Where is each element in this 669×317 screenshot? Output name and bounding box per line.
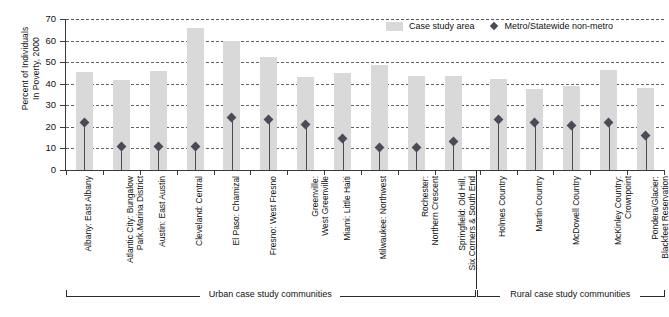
y-tick-label-70: 70 (28, 13, 56, 24)
x-axis-label-line2: Northern Crescent (431, 176, 441, 245)
chart-root: Percent of Individuals In Poverty, 2000 … (0, 0, 669, 317)
x-axis-label: El Paso: Chamizal (232, 176, 242, 245)
x-tick (140, 170, 141, 175)
x-axis-label-line2: Blackfeet Reservation (660, 176, 669, 259)
x-tick (324, 170, 325, 175)
y-tick-label-20: 20 (28, 121, 56, 132)
legend-diamond-metro-statewide (489, 22, 497, 30)
y-tick-label-10: 10 (28, 142, 56, 153)
x-axis-label: Springfield: Old Hill,Six Corners & Sout… (458, 176, 477, 271)
urban-rural-divider (476, 171, 477, 289)
legend: Case study area Metro/Statewide non-metr… (386, 21, 613, 31)
x-axis-label: Greenville:West Greenville (311, 176, 330, 236)
legend-swatch-case-study-area (386, 22, 403, 31)
marker-stem (498, 120, 499, 170)
x-axis-label-line2: West Greenville (320, 176, 330, 236)
x-axis-label-line1: Martin Country (535, 176, 545, 232)
marker-stem (535, 123, 536, 170)
x-axis-label: Atlantic City: BungalowPark.Marina Distr… (126, 176, 145, 263)
marker-stem (232, 118, 233, 170)
x-axis-label: McKinley Country:Crownpoint (614, 176, 633, 245)
x-axis-label-line1: Cleveland: Central (195, 176, 205, 246)
x-tick (517, 170, 518, 175)
x-axis-label-line1: McKinley Country: (614, 176, 624, 245)
marker-stem (306, 125, 307, 170)
y-axis-title-line2: In Poverty, 2000 (30, 9, 41, 129)
x-tick (553, 170, 554, 175)
x-tick-edge (664, 170, 665, 175)
legend-label-metro-statewide: Metro/Statewide non-metro (505, 21, 614, 31)
x-tick-edge (66, 170, 67, 175)
x-axis-label: Albany: East Albany (84, 176, 94, 252)
x-axis-label: McDowell Country (572, 176, 582, 245)
x-axis-label-line1: Austin: East Austin (158, 176, 168, 247)
x-axis-label: Holmes Country (498, 176, 508, 237)
group-label: Rural case study communities (504, 289, 636, 299)
x-axis-label: Austin: East Austin (158, 176, 168, 247)
x-axis-label-line1: El Paso: Chamizal (232, 176, 242, 245)
x-axis-label: Pondera/Glacier:Blackfeet Reservation (651, 176, 669, 259)
group-bracket-line-left (477, 296, 501, 297)
x-tick (361, 170, 362, 175)
x-axis-label: Rochester:Northern Crescent (421, 176, 440, 245)
x-axis-label-line1: Greenville: (311, 176, 321, 236)
x-tick (287, 170, 288, 175)
group-bracket-cap-right (664, 290, 665, 297)
x-axis-label-line1: Miami: Little Haiti (343, 176, 353, 241)
x-tick (398, 170, 399, 175)
x-tick (480, 170, 481, 175)
x-axis-label-line1: Albany: East Albany (84, 176, 94, 252)
legend-label-case-study-area: Case study area (409, 21, 475, 31)
x-axis-label: Martin Country (535, 176, 545, 232)
marker-stem (609, 122, 610, 170)
marker-stem (646, 136, 647, 171)
y-tick-label-50: 50 (28, 56, 56, 67)
x-tick (214, 170, 215, 175)
marker-stem (84, 123, 85, 170)
y-tick-label-60: 60 (28, 35, 56, 46)
x-axis-label-line1: McDowell Country (572, 176, 582, 245)
x-axis-label: Cleveland: Central (195, 176, 205, 246)
x-tick (250, 170, 251, 175)
marker-stem (572, 125, 573, 170)
x-axis-label: Milwaukee: Northwest (379, 176, 389, 259)
x-axis-label-line1: Fresno: West Fresno (269, 176, 279, 255)
x-tick (177, 170, 178, 175)
y-axis-title-line1: Percent of Individuals (20, 9, 31, 129)
x-axis-label-line2: Crownpoint (623, 176, 633, 245)
x-axis-label-line1: Holmes Country (498, 176, 508, 237)
x-axis-label-line1: Milwaukee: Northwest (379, 176, 389, 259)
x-axis-label-line2: Park.Marina District (136, 176, 146, 263)
x-tick (435, 170, 436, 175)
x-axis-line (65, 170, 665, 171)
y-tick-label-40: 40 (28, 78, 56, 89)
x-axis-label: Fresno: West Fresno (269, 176, 279, 255)
plot-area (66, 19, 664, 170)
x-tick (590, 170, 591, 175)
y-axis-title: Percent of Individuals In Poverty, 2000 (20, 9, 41, 129)
x-tick (627, 170, 628, 175)
group-bracket-line-right (640, 296, 664, 297)
marker-stem (269, 120, 270, 170)
x-axis-label-line1: Pondera/Glacier: (651, 176, 661, 259)
y-tick-label-30: 30 (28, 99, 56, 110)
x-axis-label: Miami: Little Haiti (343, 176, 353, 241)
x-axis-labels: Albany: East AlbanyAtlantic City: Bungal… (0, 176, 669, 286)
x-tick (103, 170, 104, 175)
group-bracket: Rural case study communities (0, 289, 669, 303)
y-tick-label-0: 0 (28, 164, 56, 175)
